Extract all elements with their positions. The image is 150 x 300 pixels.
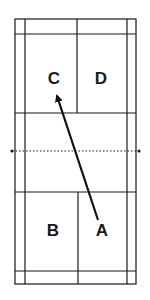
position-label-d: D — [95, 69, 107, 88]
right-net-post — [137, 149, 140, 152]
badminton-court-diagram: C D B A — [0, 0, 150, 300]
position-label-b: B — [47, 221, 59, 240]
position-label-a: A — [96, 221, 108, 240]
position-label-c: C — [48, 69, 60, 88]
left-net-post — [10, 149, 13, 152]
